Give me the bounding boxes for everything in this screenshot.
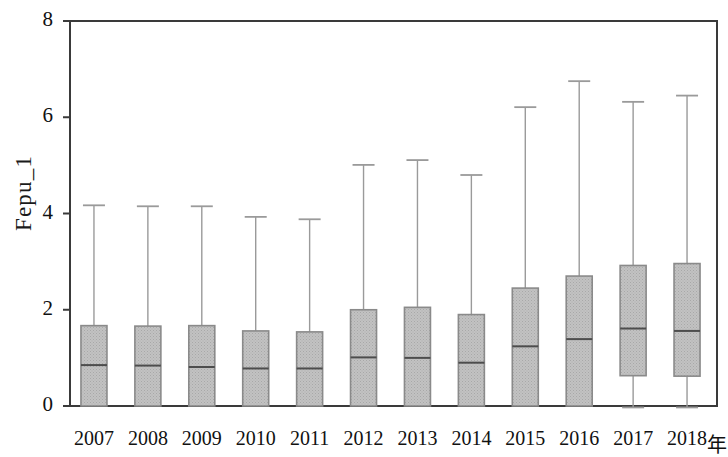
box-2009 [189, 206, 215, 406]
box-2012 [351, 165, 377, 406]
box-2011 [297, 219, 323, 406]
box-2018 [674, 96, 700, 408]
box-2010 [243, 217, 269, 406]
box-2008 [135, 206, 161, 406]
plot-area [0, 0, 728, 457]
box-2013 [404, 160, 430, 406]
axis-ticks [63, 21, 70, 406]
box-plot-chart: Fepu_1 02468 200720082009201020112012201… [0, 0, 728, 457]
box-2014 [458, 175, 484, 406]
box-2015 [512, 107, 538, 406]
box-2007 [81, 205, 107, 406]
box-series [81, 81, 700, 407]
box-2016 [566, 81, 592, 406]
box-2017 [620, 102, 646, 408]
